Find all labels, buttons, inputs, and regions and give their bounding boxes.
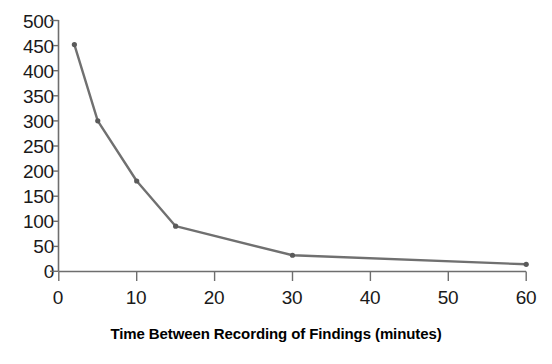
data-series-findings <box>72 42 529 267</box>
data-point <box>524 262 529 267</box>
x-axis-title: Time Between Recording of Findings (minu… <box>0 325 552 342</box>
chart-container: 500 450 400 350 300 250 200 150 100 50 0… <box>0 0 552 364</box>
data-point <box>95 118 100 123</box>
plot-area <box>0 0 552 364</box>
y-axis <box>50 20 59 271</box>
x-axis <box>59 272 527 282</box>
data-point <box>173 224 178 229</box>
data-point <box>134 178 139 183</box>
data-point <box>72 42 77 47</box>
series-line <box>74 45 526 265</box>
data-point <box>290 253 295 258</box>
